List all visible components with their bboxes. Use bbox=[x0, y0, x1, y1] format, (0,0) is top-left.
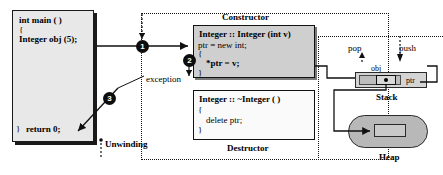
destructor-line-4: } bbox=[198, 125, 202, 136]
constructor-line-2: ptr = new int; bbox=[198, 40, 247, 51]
destructor-line-1: Integer :: ~Integer ( ) bbox=[199, 94, 280, 105]
pointer-dot-icon bbox=[384, 78, 388, 82]
destructor-line-2: { bbox=[198, 105, 202, 116]
constructor-line-5: } bbox=[198, 68, 202, 79]
step-badge-3: 3 bbox=[103, 92, 116, 105]
constructor-line-4: *ptr = v; bbox=[206, 58, 239, 69]
ptr-label: ptr bbox=[406, 76, 415, 85]
constructor-label: Constructor bbox=[222, 12, 269, 22]
main-line-1: int main ( ) bbox=[19, 15, 62, 26]
main-line-3: Integer obj (5); bbox=[19, 34, 77, 45]
heap-allocated-int bbox=[374, 124, 406, 137]
unwinding-bullet-icon bbox=[99, 138, 103, 142]
pop-annotation: pop bbox=[348, 43, 362, 53]
main-line-5: return 0; bbox=[26, 124, 61, 135]
main-function-block: int main ( ) { Integer obj (5); } return… bbox=[12, 10, 94, 142]
step-badge-2: 2 bbox=[183, 54, 196, 67]
constructor-line-3: { bbox=[198, 49, 202, 60]
diagram-canvas: int main ( ) { Integer obj (5); } return… bbox=[0, 0, 443, 175]
constructor-line-1: Integer :: Integer (int v) bbox=[199, 29, 291, 40]
heap-label: Heap bbox=[379, 152, 400, 162]
push-annotation: push bbox=[399, 43, 416, 53]
destructor-line-3: delete ptr; bbox=[206, 115, 242, 126]
exception-annotation: exception bbox=[146, 74, 181, 84]
destructor-block: Integer :: ~Integer ( ) { delete ptr; } bbox=[193, 90, 315, 140]
destructor-label: Destructor bbox=[227, 143, 268, 153]
main-line-4: } bbox=[16, 124, 20, 135]
step-badge-1: 1 bbox=[136, 40, 149, 53]
constructor-block: Integer :: Integer (int v) ptr = new int… bbox=[193, 25, 315, 78]
stack-label: Stack bbox=[376, 92, 398, 102]
unwinding-annotation: Unwinding bbox=[105, 139, 148, 149]
